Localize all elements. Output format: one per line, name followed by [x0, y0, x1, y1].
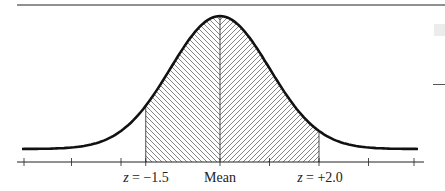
side-scrollbar-fragment	[434, 24, 445, 36]
shaded-area-right	[220, 16, 319, 162]
label-mean: Mean	[204, 170, 236, 186]
side-mark	[433, 84, 445, 85]
label-z-minus: z = −1.5	[123, 170, 169, 186]
normal-curve-chart	[0, 0, 445, 191]
label-z-plus: z = +2.0	[297, 170, 343, 186]
